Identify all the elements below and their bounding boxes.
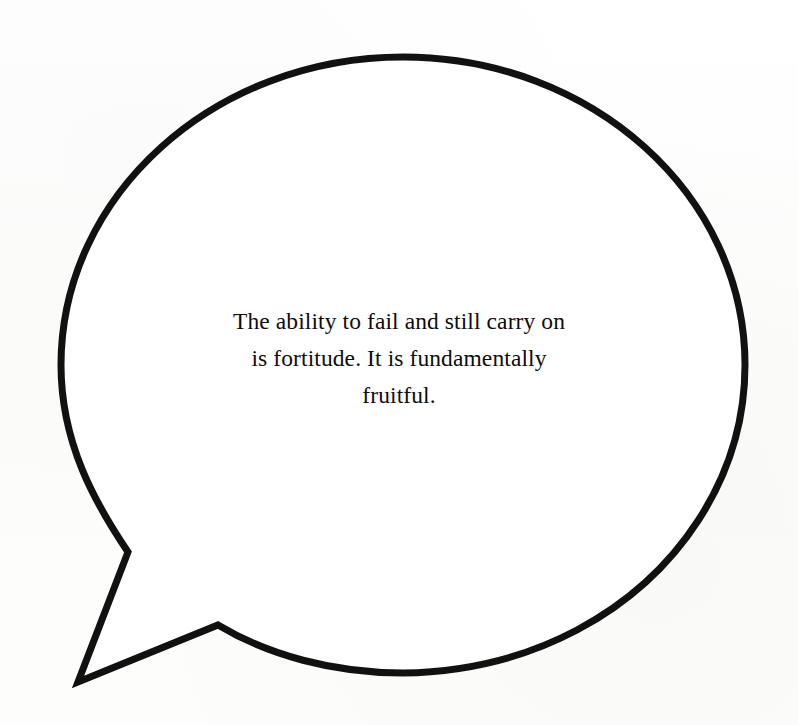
speech-bubble-graphic bbox=[0, 0, 798, 725]
speech-bubble-outline bbox=[61, 57, 745, 682]
speech-bubble-scene: The ability to fail and still carry on i… bbox=[0, 0, 798, 725]
